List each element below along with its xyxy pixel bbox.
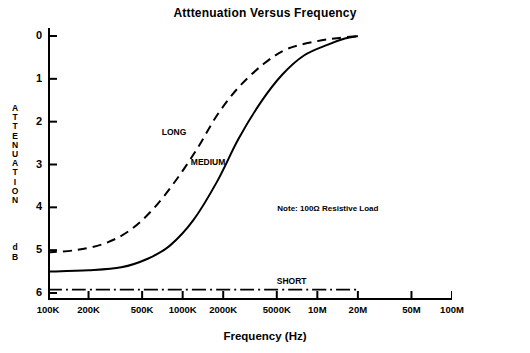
chart-title: Atttenuation Versus Frequency [0,6,530,20]
y-tick-label: 4 [26,200,42,212]
y-axis-label: ATTENUATION [8,104,22,205]
y-tick-label: 3 [26,158,42,170]
y-axis-unit-label: dB [8,243,22,262]
y-tick-label: 0 [26,29,42,41]
series-label-long: LONG [162,127,187,137]
series-line-long [48,36,358,252]
y-tick-label: 5 [26,243,42,255]
y-axis-label-char: N [8,196,22,205]
plot-svg [48,28,452,300]
y-tick-marks [49,36,57,293]
y-tick-label: 1 [26,72,42,84]
series-label-medium: MEDIUM [191,157,225,167]
series-line-medium [48,36,358,272]
series-label-short: SHORT [277,276,307,286]
x-tick-label: 100M [428,304,476,315]
chart-container: Atttenuation Versus Frequency ATTENUATIO… [0,0,530,353]
x-axis-title: Frequency (Hz) [0,330,530,342]
x-tick-label: 200K [65,304,113,315]
y-tick-label: 2 [26,115,42,127]
plot-area [48,28,452,300]
y-tick-label: 6 [26,286,42,298]
x-tick-label: 2000K [199,304,247,315]
x-tick-marks [48,291,452,299]
y-axis-unit-char: B [8,253,22,263]
note-annotation: Note: 100Ω Resistive Load [277,204,378,213]
x-tick-label: 20M [334,304,382,315]
